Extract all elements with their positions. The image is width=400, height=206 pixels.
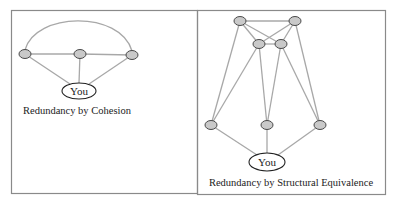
contact-node-bottom-left <box>205 121 217 130</box>
cohesion-caption: Redundancy by Cohesion <box>23 105 132 116</box>
cohesion-panel-frame <box>12 11 198 194</box>
redundancy-figure: You Redundancy by Cohesion You Redundanc <box>0 0 400 206</box>
edge-left-you <box>25 54 70 84</box>
contact-node-top-left <box>234 17 246 26</box>
contact-node-middle <box>74 50 86 59</box>
ego-node-you: You <box>62 83 96 99</box>
edge-tl-bl <box>211 21 240 125</box>
edge-il-bm <box>259 44 267 125</box>
contact-node-right <box>126 51 138 60</box>
structural-equivalence-panel-frame <box>198 11 386 195</box>
ego-label: You <box>70 85 88 97</box>
edge-ir-bm <box>267 44 281 125</box>
ego-label: You <box>258 156 276 168</box>
edge-tr-br <box>295 21 320 125</box>
structural-equivalence-network: You Redundancy by Structural Equivalence <box>205 17 373 189</box>
edge-il-bl <box>211 44 259 125</box>
contact-node-bottom-middle <box>261 121 273 130</box>
contact-node-left <box>19 50 31 59</box>
contact-node-inner-left <box>253 40 265 49</box>
edge-bl-you <box>211 125 257 155</box>
edge-arc-left-right <box>25 21 132 51</box>
structural-equivalence-caption: Redundancy by Structural Equivalence <box>209 177 373 188</box>
edge-middle-right <box>80 54 132 55</box>
edge-ir-br <box>281 44 320 125</box>
cohesion-network: You Redundancy by Cohesion <box>19 21 138 116</box>
ego-node-you: You <box>249 153 285 171</box>
edge-br-you <box>278 125 320 155</box>
edge-right-you <box>89 55 132 84</box>
contact-node-top-right <box>289 17 301 26</box>
contact-node-inner-right <box>275 40 287 49</box>
contact-node-bottom-right <box>314 121 326 130</box>
